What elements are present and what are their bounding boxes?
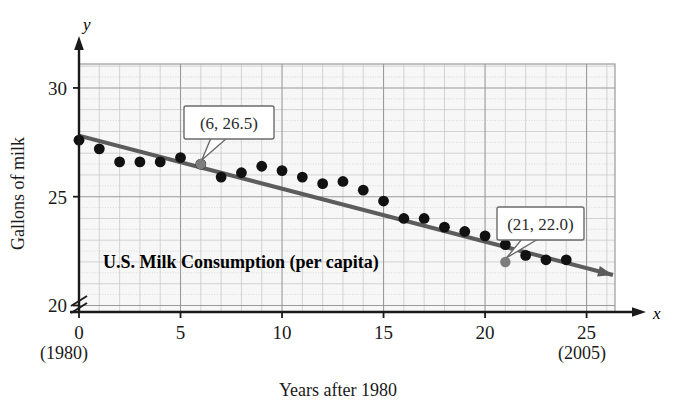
- y-tick-label: 30: [48, 78, 67, 99]
- data-point: [480, 230, 491, 241]
- data-point: [155, 156, 166, 167]
- data-point: [541, 254, 552, 265]
- x-tick-label: 0: [74, 322, 84, 343]
- data-point: [317, 178, 328, 189]
- data-point: [520, 250, 531, 261]
- y-axis-arrowhead: [74, 36, 84, 50]
- x-tick-label: 20: [476, 322, 495, 343]
- x-axis-start-year-note: (1980): [40, 343, 88, 364]
- chart-caption: U.S. Milk Consumption (per capita): [103, 252, 379, 273]
- data-point: [338, 176, 349, 187]
- annotation-point: [500, 257, 510, 267]
- data-point: [439, 222, 450, 233]
- data-point: [500, 239, 511, 250]
- y-axis-letter: y: [81, 15, 91, 34]
- data-point: [378, 196, 389, 207]
- annotation-point: [196, 159, 206, 169]
- x-axis-title: Years after 1980: [279, 380, 397, 400]
- x-axis-tick-labels: 0510152025: [74, 322, 596, 343]
- x-tick-label: 25: [577, 322, 596, 343]
- data-point: [236, 167, 247, 178]
- milk-consumption-chart: 0510152025 202530 y x (1980) (2005) Gall…: [0, 0, 676, 408]
- data-point: [256, 161, 267, 172]
- data-point: [419, 213, 430, 224]
- x-tick-label: 10: [273, 322, 292, 343]
- x-axis-end-year-note: (2005): [558, 343, 606, 364]
- y-tick-label: 25: [48, 187, 67, 208]
- y-axis-title: Gallons of milk: [8, 137, 28, 250]
- data-point: [114, 156, 125, 167]
- data-point: [561, 254, 572, 265]
- data-point: [297, 172, 308, 183]
- y-tick-label: 20: [48, 295, 67, 316]
- x-axis-letter: x: [652, 304, 661, 323]
- data-point: [135, 156, 146, 167]
- data-point: [94, 143, 105, 154]
- x-tick-label: 5: [176, 322, 186, 343]
- y-axis-tick-labels: 202530: [48, 78, 67, 317]
- data-point: [358, 185, 369, 196]
- callout-2-label: (21, 22.0): [507, 215, 574, 234]
- data-point: [277, 165, 288, 176]
- x-axis-arrowhead: [632, 307, 646, 317]
- plot-background: [79, 64, 615, 312]
- data-point: [175, 152, 186, 163]
- callout-1-label: (6, 26.5): [200, 114, 258, 133]
- chart-figure: 0510152025 202530 y x (1980) (2005) Gall…: [0, 0, 676, 408]
- data-point: [459, 226, 470, 237]
- data-point: [398, 213, 409, 224]
- data-point: [216, 172, 227, 183]
- x-tick-label: 15: [374, 322, 393, 343]
